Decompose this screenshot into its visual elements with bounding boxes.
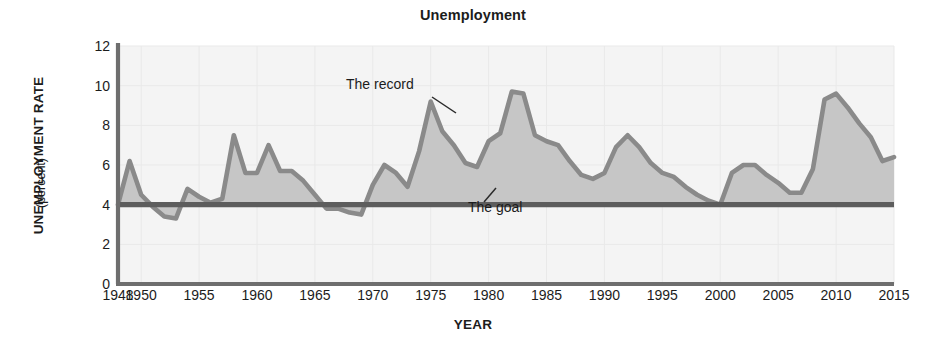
x-axis-title: YEAR bbox=[0, 317, 946, 332]
x-tick-2005: 2005 bbox=[748, 288, 808, 303]
x-tick-2010: 2010 bbox=[806, 288, 866, 303]
x-tick-1965: 1965 bbox=[285, 288, 345, 303]
x-tick-2000: 2000 bbox=[690, 288, 750, 303]
x-tick-1955: 1955 bbox=[169, 288, 229, 303]
chart-figure: Unemployment UNEMPLOYMENT RATE (percent)… bbox=[0, 0, 946, 359]
x-tick-2015: 2015 bbox=[864, 288, 924, 303]
annotation-the-record: The record bbox=[346, 76, 414, 92]
x-tick-1950: 1950 bbox=[111, 288, 171, 303]
annotation-the-goal: The goal bbox=[468, 199, 522, 215]
x-tick-1980: 1980 bbox=[459, 288, 519, 303]
x-tick-1985: 1985 bbox=[517, 288, 577, 303]
x-tick-1960: 1960 bbox=[227, 288, 287, 303]
x-tick-1975: 1975 bbox=[401, 288, 461, 303]
x-tick-1970: 1970 bbox=[343, 288, 403, 303]
x-tick-1995: 1995 bbox=[632, 288, 692, 303]
chart-plot-area bbox=[0, 0, 946, 359]
x-tick-1990: 1990 bbox=[574, 288, 634, 303]
